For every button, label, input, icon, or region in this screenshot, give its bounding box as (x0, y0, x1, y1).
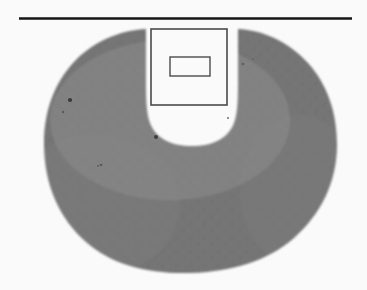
scan-speck (97, 165, 99, 167)
scan-speck (62, 111, 64, 113)
scan-speck (100, 164, 103, 167)
scan-speck (68, 98, 72, 102)
figure-canvas (0, 0, 367, 290)
scan-speck (242, 63, 244, 65)
figure-root (0, 0, 367, 290)
scan-speck (154, 135, 158, 139)
scan-speck (252, 58, 254, 60)
scan-speck (227, 117, 229, 119)
